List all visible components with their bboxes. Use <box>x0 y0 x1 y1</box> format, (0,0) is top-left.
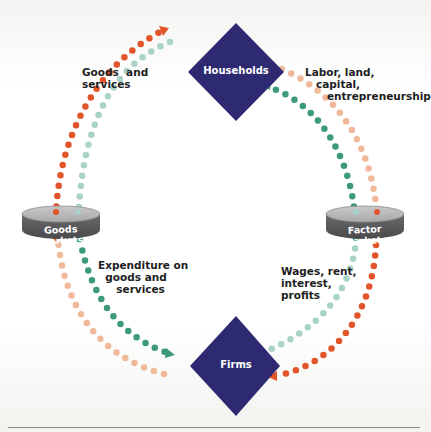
goods-markets-label: Goods markets <box>21 222 100 248</box>
arrow-head-icon <box>165 348 175 358</box>
flow-label-goods-services: Goods and services <box>82 66 148 90</box>
households-label: Households <box>196 65 276 76</box>
flow-label-wages: Wages, rent, interest, profits <box>281 265 357 301</box>
flow-goods-to-firms <box>80 240 165 352</box>
flow-label-factors: Labor, land, capital, entrepreneurship <box>305 66 431 102</box>
firms-label: Firms <box>196 359 276 370</box>
bottom-rule <box>8 427 420 428</box>
factor-markets-label: Factor markets <box>325 222 404 248</box>
flow-label-expenditure: Expenditure on goods and services <box>98 259 188 295</box>
